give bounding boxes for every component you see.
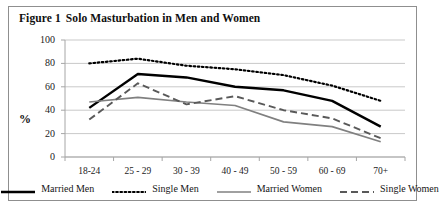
page-title: Solo Masturbation in Men and Women bbox=[66, 12, 261, 24]
legend-swatch-icon bbox=[112, 183, 146, 193]
legend-label: Married Men bbox=[41, 183, 94, 194]
x-axis-tick-label: 70+ bbox=[373, 166, 388, 176]
figure-number: Figure 1 bbox=[19, 12, 61, 24]
line-chart-svg bbox=[9, 29, 416, 177]
legend-swatch-icon bbox=[340, 183, 374, 193]
figure-frame: Figure 1Solo Masturbation in Men and Wom… bbox=[8, 6, 417, 201]
legend-swatch-icon bbox=[217, 183, 251, 193]
legend-label: Single Women bbox=[380, 183, 439, 194]
x-axis-tick-label: 50 - 59 bbox=[270, 166, 297, 176]
legend-label: Single Men bbox=[152, 183, 198, 194]
y-axis-tick-label: 20 bbox=[29, 128, 55, 139]
x-axis-tick-label: 30 - 39 bbox=[173, 166, 200, 176]
figure-caption: Figure 1Solo Masturbation in Men and Wom… bbox=[19, 12, 260, 24]
legend-entry[interactable]: Single Men bbox=[112, 183, 198, 194]
y-axis-tick-label: 0 bbox=[29, 151, 55, 162]
chart-legend: Married MenSingle MenMarried WomenSingle… bbox=[23, 179, 417, 197]
legend-entry[interactable]: Single Women bbox=[340, 183, 439, 194]
x-axis-tick-label: 60 - 69 bbox=[319, 166, 346, 176]
legend-entry[interactable]: Married Men bbox=[1, 183, 94, 194]
y-axis-tick-label: 60 bbox=[29, 81, 55, 92]
y-axis-tick-label: 80 bbox=[29, 57, 55, 68]
legend-label: Married Women bbox=[257, 183, 322, 194]
legend-entry[interactable]: Married Women bbox=[217, 183, 322, 194]
series-line-married-men bbox=[89, 74, 380, 127]
chart-plot-area: % 02040608010018-2425 - 2930 - 3940 - 49… bbox=[9, 29, 416, 177]
series-line-single-women bbox=[89, 83, 380, 138]
x-axis-tick-label: 18-24 bbox=[78, 166, 100, 176]
x-axis-tick-label: 25 - 29 bbox=[124, 166, 151, 176]
legend-swatch-icon bbox=[1, 183, 35, 193]
y-axis-tick-label: 100 bbox=[29, 34, 55, 45]
series-line-single-men bbox=[89, 59, 380, 101]
x-axis-tick-label: 40 - 49 bbox=[222, 166, 249, 176]
y-axis-tick-label: 40 bbox=[29, 104, 55, 115]
